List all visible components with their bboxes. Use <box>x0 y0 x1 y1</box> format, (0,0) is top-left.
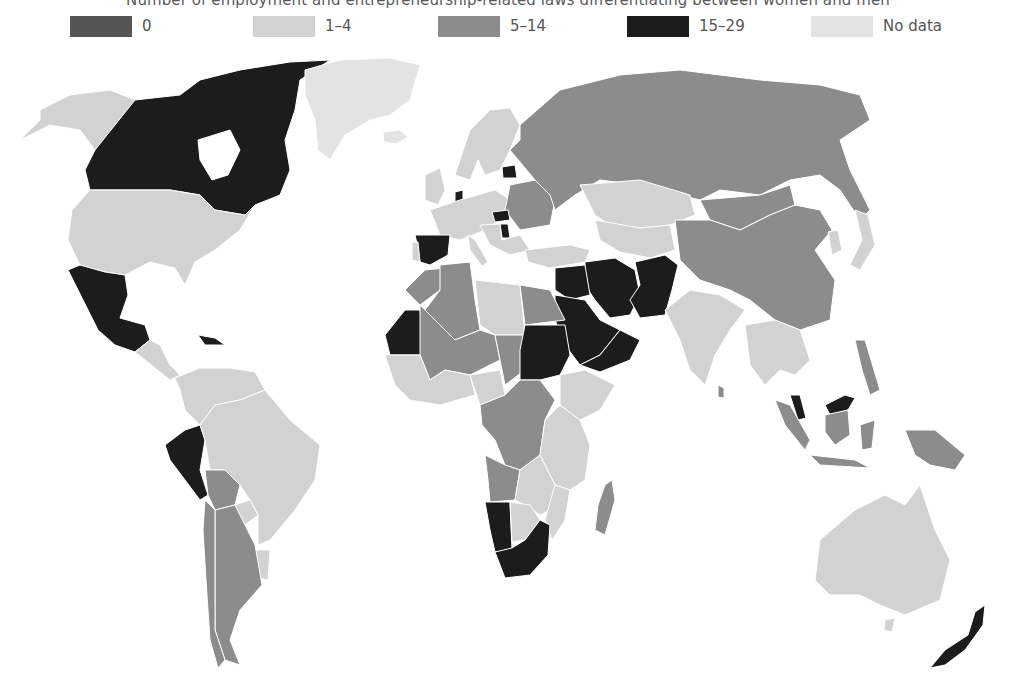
region-cuba-caribbean <box>198 335 225 345</box>
region-namibia <box>485 502 512 552</box>
region-peru <box>165 425 208 500</box>
region-sulawesi <box>860 420 875 450</box>
region-madagascar <box>595 480 615 535</box>
region-java <box>810 455 870 468</box>
world-map <box>0 0 1016 684</box>
region-central-america <box>135 340 180 380</box>
region-japan <box>850 210 875 270</box>
region-baltics <box>502 165 517 178</box>
region-iran <box>585 258 640 318</box>
region-argentina <box>215 505 262 665</box>
region-philippines <box>855 340 880 395</box>
region-iceland <box>383 130 408 144</box>
region-portugal <box>412 242 420 262</box>
region-australia <box>815 485 950 615</box>
region-turkey <box>525 245 590 268</box>
region-new-zealand <box>930 605 985 668</box>
region-mexico <box>68 265 150 352</box>
region-hungary <box>492 210 510 222</box>
region-india <box>665 290 745 385</box>
region-greenland <box>305 58 420 160</box>
region-sri-lanka <box>718 385 724 398</box>
region-sudan <box>520 325 570 380</box>
region-southeast-asia <box>745 320 810 385</box>
region-mauritania <box>385 310 425 355</box>
region-italy <box>468 235 488 266</box>
region-libya <box>475 280 525 335</box>
region-iraq-syria <box>555 265 590 300</box>
region-uk <box>425 168 445 205</box>
region-korea <box>828 230 842 255</box>
region-tasmania <box>884 618 895 632</box>
region-borneo-indonesia <box>825 410 850 445</box>
region-sumatra <box>775 400 810 450</box>
region-png <box>905 430 965 470</box>
